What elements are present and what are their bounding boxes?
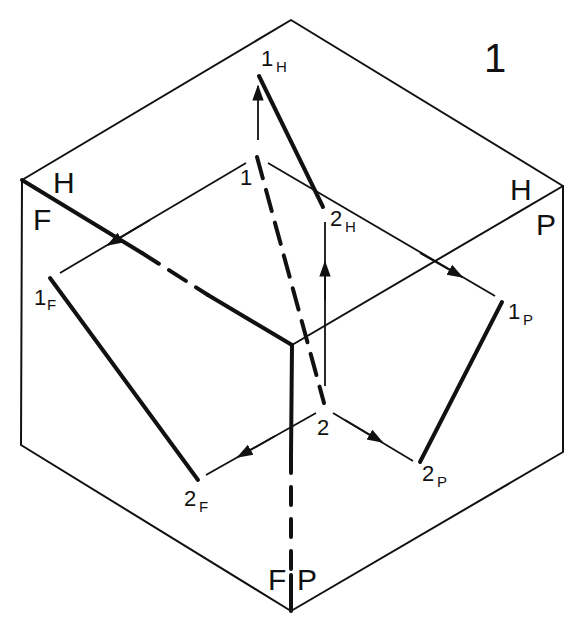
svg-text:H: H bbox=[276, 58, 287, 75]
plane-label-f-bottom: F bbox=[268, 563, 286, 596]
point-label-1: 1 bbox=[240, 165, 252, 190]
plane-label-h-left: H bbox=[53, 166, 75, 199]
plane-label-h-right: H bbox=[510, 173, 532, 206]
svg-text:2: 2 bbox=[184, 486, 196, 511]
svg-text:2: 2 bbox=[330, 206, 342, 231]
svg-text:F: F bbox=[199, 498, 208, 515]
plane-label-p-right: P bbox=[536, 208, 556, 241]
plane-label-f-left: F bbox=[33, 203, 51, 236]
svg-text:2: 2 bbox=[422, 461, 434, 486]
point-label-2: 2 bbox=[317, 415, 329, 440]
svg-text:2: 2 bbox=[317, 415, 329, 440]
projection-diagram: 1 H F H P F P 1 H 1 2 H 1 F 1 P 2 2 F 2 … bbox=[0, 0, 580, 639]
svg-text:H: H bbox=[345, 218, 356, 235]
svg-text:1: 1 bbox=[240, 165, 252, 190]
svg-text:F: F bbox=[47, 296, 56, 313]
hf-fold-line bbox=[22, 180, 292, 345]
figure-number: 1 bbox=[484, 36, 506, 80]
fp-fold-line bbox=[291, 345, 292, 611]
svg-text:P: P bbox=[437, 473, 447, 490]
point-label-1F: 1 F bbox=[34, 285, 56, 313]
point-label-1P: 1 P bbox=[508, 299, 533, 328]
svg-text:P: P bbox=[523, 311, 533, 328]
line-1P-2P bbox=[420, 302, 502, 462]
svg-text:1: 1 bbox=[261, 46, 273, 71]
point-label-2H: 2 H bbox=[330, 206, 356, 235]
svg-text:1: 1 bbox=[34, 285, 46, 310]
point-label-2P: 2 P bbox=[422, 461, 447, 490]
svg-text:1: 1 bbox=[508, 299, 520, 324]
line-1F-2F bbox=[50, 278, 198, 480]
point-label-2F: 2 F bbox=[184, 486, 208, 515]
line-1H-2H bbox=[259, 76, 323, 207]
point-label-1H: 1 H bbox=[261, 46, 287, 75]
plane-label-p-bottom: P bbox=[297, 563, 317, 596]
projection-rays bbox=[60, 86, 495, 475]
